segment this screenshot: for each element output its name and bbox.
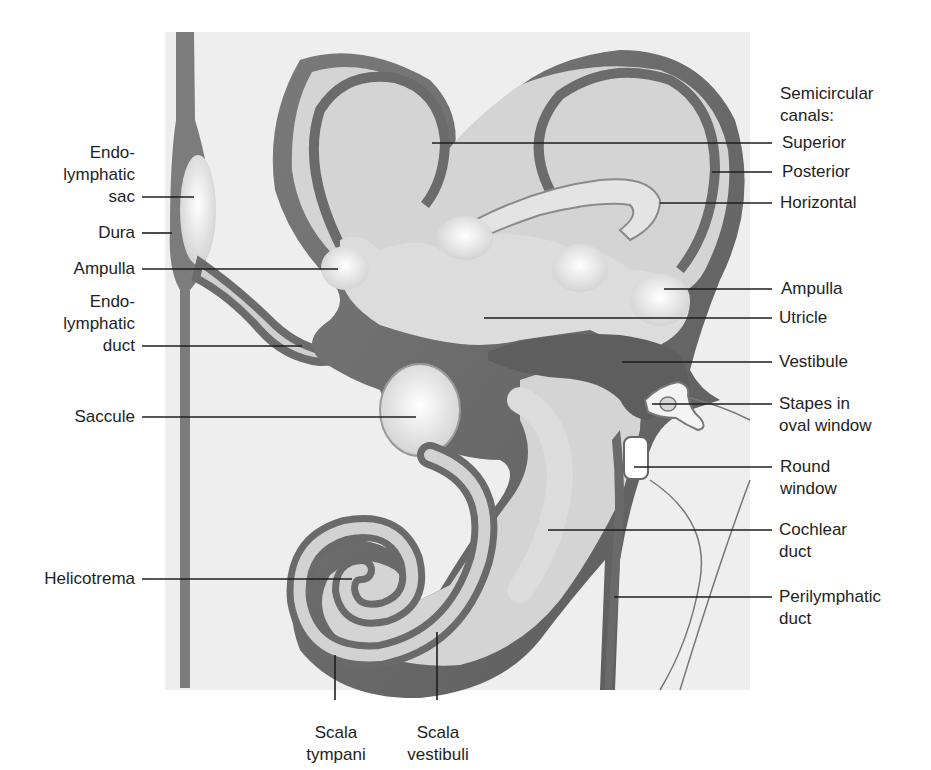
label-endolymphatic-sac: Endo- lymphatic sac — [63, 142, 135, 208]
label-ampulla-right: Ampulla — [781, 278, 842, 300]
label-line: lymphatic — [63, 313, 135, 335]
label-line: vestibuli — [392, 744, 484, 766]
label-line: Utricle — [779, 307, 827, 329]
endolymphatic-sac-shape — [180, 155, 216, 265]
label-stapes: Stapes in oval window — [779, 393, 872, 437]
label-perilymphatic-duct: Perilymphatic duct — [779, 586, 881, 630]
label-line: sac — [63, 186, 135, 208]
label-dura: Dura — [98, 222, 135, 244]
label-line: Saccule — [75, 406, 135, 428]
label-line: Stapes in — [779, 393, 872, 415]
label-line: Round — [780, 456, 837, 478]
label-line: Superior — [782, 132, 846, 154]
saccule-shape — [380, 364, 460, 456]
label-semicircular-canals: Semicircular canals: — [780, 83, 874, 127]
label-scala-vestibuli: Scala vestibuli — [392, 722, 484, 766]
label-line: Helicotrema — [44, 568, 135, 590]
label-line: duct — [779, 541, 847, 563]
label-line: Ampulla — [74, 258, 135, 280]
label-line: Endo- — [63, 142, 135, 164]
label-line: Scala — [290, 722, 382, 744]
label-line: window — [780, 478, 837, 500]
label-line: duct — [779, 608, 881, 630]
label-superior: Superior — [782, 132, 846, 154]
label-line: Posterior — [782, 161, 850, 183]
label-line: Horizontal — [780, 192, 857, 214]
label-endolymphatic-duct: Endo- lymphatic duct — [63, 291, 135, 357]
label-line: Perilymphatic — [779, 586, 881, 608]
label-line: duct — [63, 335, 135, 357]
label-line: Ampulla — [781, 278, 842, 300]
label-ampulla-left: Ampulla — [74, 258, 135, 280]
label-posterior: Posterior — [782, 161, 850, 183]
label-line: oval window — [779, 415, 872, 437]
label-line: Endo- — [63, 291, 135, 313]
label-line: Vestibule — [779, 351, 848, 373]
label-horizontal: Horizontal — [780, 192, 857, 214]
label-line: Semicircular — [780, 83, 874, 105]
label-line: Scala — [392, 722, 484, 744]
label-line: canals: — [780, 105, 874, 127]
label-helicotrema: Helicotrema — [44, 568, 135, 590]
label-scala-tympani: Scala tympani — [290, 722, 382, 766]
label-cochlear-duct: Cochlear duct — [779, 519, 847, 563]
label-saccule: Saccule — [75, 406, 135, 428]
round-window-shape — [624, 437, 648, 479]
label-line: Dura — [98, 222, 135, 244]
label-line: lymphatic — [63, 164, 135, 186]
label-vestibule: Vestibule — [779, 351, 848, 373]
label-line: tympani — [290, 744, 382, 766]
label-round-window: Round window — [780, 456, 837, 500]
label-line: Cochlear — [779, 519, 847, 541]
label-utricle: Utricle — [779, 307, 827, 329]
